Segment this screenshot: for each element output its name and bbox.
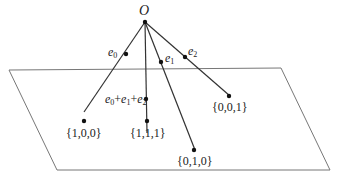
e1-sub: 1 [170,57,174,66]
diagram-canvas [0,0,338,181]
point-010-label: {0,1,0} [177,155,213,167]
origin-label: O [139,4,149,18]
point-111-dot [145,119,149,123]
sum-c-sub: 2 [143,98,147,107]
e2-dot [183,55,187,59]
e0-sub: 0 [113,51,117,60]
e1-label: e1 [165,52,174,66]
vector-line-001 [145,22,230,96]
e0-dot [124,52,128,56]
sum-label: e0+e1+e2 [105,93,147,107]
point-100-label: {1,0,0} [66,127,102,139]
e2-label: e2 [188,45,197,59]
e2-sub: 2 [193,50,197,59]
vector-line-111 [145,22,147,133]
point-001-label: {0,0,1} [212,101,248,113]
point-111-label: {1,1,1} [130,127,166,139]
point-001-dot [227,94,231,98]
origin-dot [143,20,147,24]
point-100-dot [82,119,86,123]
e0-label: e0 [108,46,117,60]
point-010-dot [192,148,196,152]
e1-dot [159,60,163,64]
